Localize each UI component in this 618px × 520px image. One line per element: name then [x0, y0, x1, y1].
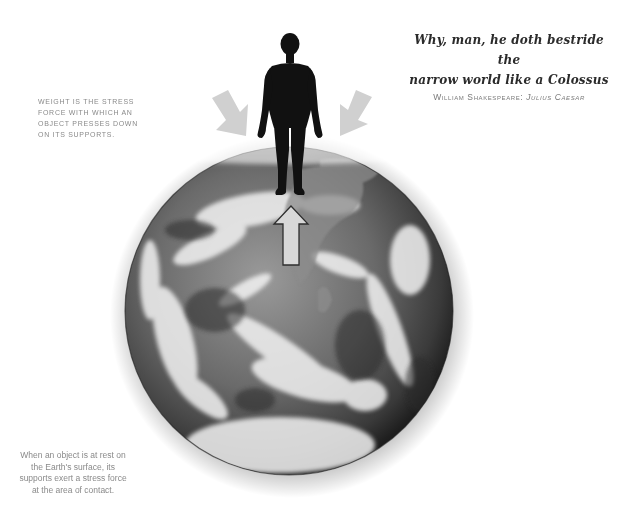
shakespeare-quote: Why, man, he doth bestride the narrow wo… — [404, 30, 614, 102]
support-caption: When an object is at rest on the Earth's… — [18, 450, 128, 496]
illustration-page: Why, man, he doth bestride the narrow wo… — [0, 0, 618, 520]
quote-line-2: narrow world like a Colossus — [404, 70, 614, 90]
quote-author: William Shakespeare: — [433, 92, 523, 102]
quote-work: Julius Caesar — [526, 92, 585, 102]
weight-caption: Weight is the stress force with which an… — [38, 96, 148, 140]
quote-attribution: William Shakespeare: Julius Caesar — [404, 92, 614, 102]
weight-arrow-left-icon — [212, 90, 248, 136]
atmosphere-haze — [140, 136, 440, 164]
quote-line-1: Why, man, he doth bestride the — [404, 30, 614, 70]
weight-arrow-right-icon — [340, 90, 372, 136]
